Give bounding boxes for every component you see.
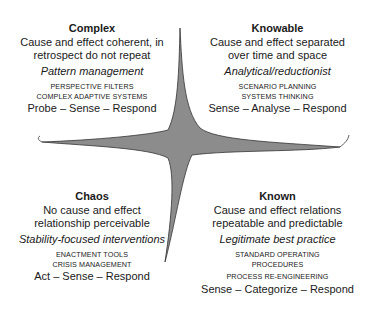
quadrant-approach: Analytical/reductionist	[190, 65, 365, 78]
quadrant-title: Complex	[4, 22, 180, 35]
quadrant-approach: Legitimate best practice	[190, 233, 365, 246]
quadrant-approach: Stability-focused interventions	[4, 233, 180, 246]
quadrant-description-line: over time and space	[190, 49, 365, 62]
quadrant-description-line: No cause and effect	[4, 204, 180, 217]
quadrant-known: Known Cause and effect relations repeata…	[190, 190, 365, 296]
quadrant-description-line: retrospect do not repeat	[4, 49, 180, 62]
quadrant-tool: CRISIS MANAGEMENT	[4, 260, 180, 270]
quadrant-tool: PERSPECTIVE FILTERS	[4, 82, 180, 92]
quadrant-description-line: relationship perceivable	[4, 217, 180, 230]
quadrant-title: Chaos	[4, 190, 180, 203]
quadrant-description-line: Cause and effect coherent, in	[4, 36, 180, 49]
quadrant-response: Sense – Categorize – Respond	[190, 283, 365, 296]
quadrant-tool: PROCESS RE-ENGINEERING	[190, 272, 365, 282]
quadrant-tool: SYSTEMS THINKING	[190, 92, 365, 102]
quadrant-description-line: Cause and effect relations	[190, 204, 365, 217]
quadrant-complex: Complex Cause and effect coherent, in re…	[4, 22, 180, 115]
quadrant-title: Knowable	[190, 22, 365, 35]
quadrant-response: Sense – Analyse – Respond	[190, 102, 365, 115]
quadrant-tool: ENACTMENT TOOLS	[4, 250, 180, 260]
quadrant-approach: Pattern management	[4, 65, 180, 78]
quadrant-tool: SCENARIO PLANNING	[190, 82, 365, 92]
quadrant-description-line: Cause and effect separated	[190, 36, 365, 49]
quadrant-description-line: repeatable and predictable	[190, 217, 365, 230]
quadrant-response: Probe – Sense – Respond	[4, 102, 180, 115]
quadrant-title: Known	[190, 190, 365, 203]
quadrant-knowable: Knowable Cause and effect separated over…	[190, 22, 365, 115]
quadrant-tool: COMPLEX ADAPTIVE SYSTEMS	[4, 92, 180, 102]
quadrant-tool: STANDARD OPERATING	[190, 250, 365, 260]
quadrant-response: Act – Sense – Respond	[4, 270, 180, 283]
quadrant-tool: PROCEDURES	[190, 260, 365, 270]
quadrant-chaos: Chaos No cause and effect relationship p…	[4, 190, 180, 283]
